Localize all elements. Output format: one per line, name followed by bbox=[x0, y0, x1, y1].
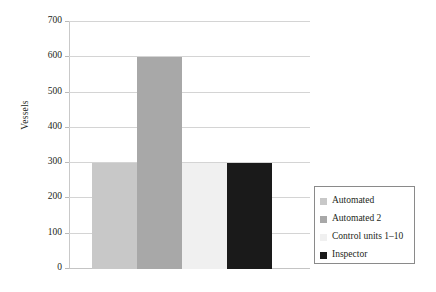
legend-label: Control units 1–10 bbox=[332, 232, 403, 242]
bar-chart: Vessels 0100200300400500600700 Automated… bbox=[0, 0, 436, 292]
legend-label: Automated bbox=[332, 196, 374, 206]
legend: AutomatedAutomated 2Control units 1–10In… bbox=[314, 186, 415, 264]
legend-swatch-icon bbox=[320, 216, 327, 223]
y-axis-tick-label: 300 bbox=[18, 157, 62, 167]
y-axis-tick-label: 600 bbox=[18, 51, 62, 61]
bar bbox=[137, 57, 182, 269]
legend-item: Automated 2 bbox=[315, 210, 414, 228]
legend-item: Automated bbox=[315, 192, 414, 210]
legend-label: Automated 2 bbox=[332, 214, 381, 224]
legend-swatch-icon bbox=[320, 252, 327, 259]
legend-item: Inspector bbox=[315, 246, 414, 264]
y-axis-title: Vessels bbox=[20, 70, 30, 160]
y-axis-tick-label: 400 bbox=[18, 122, 62, 132]
bars-group bbox=[69, 21, 310, 269]
legend-swatch-icon bbox=[320, 198, 327, 205]
y-axis-tick-label: 700 bbox=[18, 16, 62, 26]
y-axis-tick-label: 100 bbox=[18, 228, 62, 238]
legend-label: Inspector bbox=[332, 250, 367, 260]
legend-item: Control units 1–10 bbox=[315, 228, 414, 246]
bar bbox=[227, 163, 272, 269]
y-axis-tick-label: 200 bbox=[18, 192, 62, 202]
y-axis-tick-label: 0 bbox=[18, 263, 62, 273]
legend-swatch-icon bbox=[320, 234, 327, 241]
bar bbox=[182, 163, 227, 269]
bar bbox=[92, 163, 137, 269]
y-axis-tick-label: 500 bbox=[18, 87, 62, 97]
